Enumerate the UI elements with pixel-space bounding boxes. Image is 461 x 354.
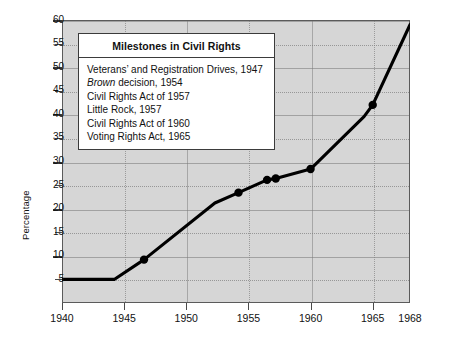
x-tick-label: 1955 <box>225 312 271 324</box>
y-tick-label: 30 <box>30 155 64 166</box>
x-tick-label: 1945 <box>101 312 147 324</box>
legend-item: Voting Rights Act, 1965 <box>87 130 274 143</box>
x-tick <box>373 303 374 310</box>
x-tick <box>311 303 312 310</box>
y-tick-label: 55 <box>30 37 64 48</box>
line-chart: Percentage 51015202530354045505560194019… <box>0 0 461 354</box>
data-point-marker <box>263 176 271 184</box>
legend-item: Civil Rights Act of 1957 <box>87 90 274 103</box>
y-tick-label: 60 <box>30 14 64 25</box>
y-axis-title: Percentage <box>8 40 19 140</box>
x-tick-label: 1968 <box>387 312 433 324</box>
data-point-marker <box>272 174 280 182</box>
x-tick <box>186 303 187 310</box>
x-tick-label: 1950 <box>163 312 209 324</box>
x-tick <box>124 303 125 310</box>
legend-item: Veterans’ and Registration Drives, 1947 <box>87 63 274 76</box>
y-tick-label: 35 <box>30 131 64 142</box>
y-tick-label: 10 <box>30 249 64 260</box>
data-point-marker <box>369 101 377 109</box>
legend-box: Milestones in Civil Rights Veterans’ and… <box>78 33 275 150</box>
y-tick-label: 45 <box>30 84 64 95</box>
x-tick <box>62 303 63 310</box>
legend-title: Milestones in Civil Rights <box>79 34 274 58</box>
legend-item-list: Veterans’ and Registration Drives, 1947B… <box>79 58 274 149</box>
data-point-marker <box>306 165 314 173</box>
legend-item-emphasis: Brown <box>87 77 115 88</box>
x-tick-label: 1960 <box>288 312 334 324</box>
legend-item: Civil Rights Act of 1960 <box>87 117 274 130</box>
x-tick-label: 1940 <box>39 312 85 324</box>
y-tick-label: 15 <box>30 226 64 237</box>
y-tick-label: 40 <box>30 108 64 119</box>
data-point-marker <box>140 255 148 263</box>
x-tick <box>248 303 249 310</box>
y-tick-label: 20 <box>30 202 64 213</box>
y-tick-label: 50 <box>30 61 64 72</box>
y-tick-label: 5 <box>30 273 64 284</box>
y-tick-label: 25 <box>30 179 64 190</box>
legend-item: Little Rock, 1957 <box>87 103 274 116</box>
data-point-marker <box>234 188 242 196</box>
legend-item: Brown decision, 1954 <box>87 76 274 89</box>
